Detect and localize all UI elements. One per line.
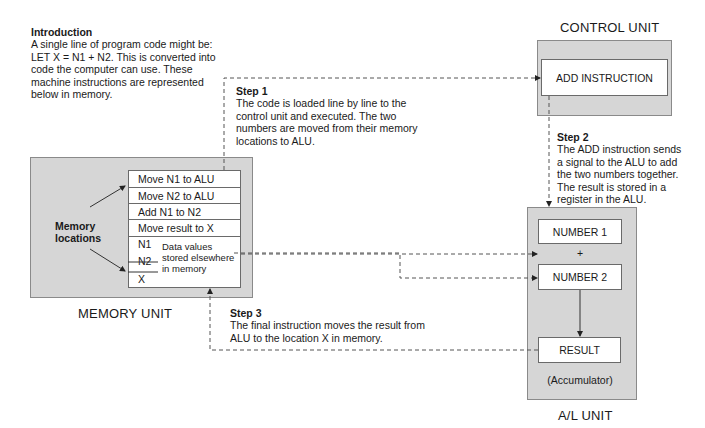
- step1-dashed-connector: [224, 78, 540, 170]
- memory-location-arrow-lower: [90, 249, 125, 271]
- memory-location-arrow-upper: [90, 186, 125, 207]
- n2-to-number2-connector: [234, 253, 537, 278]
- connector-lines: [0, 0, 705, 428]
- step3-dashed-connector: [210, 289, 538, 350]
